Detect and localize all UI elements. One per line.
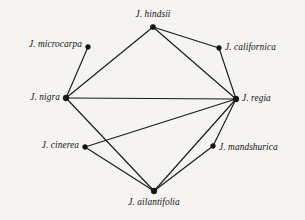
graph-canvas <box>0 0 305 220</box>
node-label-regia: J. regia <box>242 94 271 103</box>
node-cinerea[interactable] <box>83 145 88 150</box>
node-label-nigra: J. nigra <box>30 93 60 102</box>
species-network-diagram: J. hindsiiJ. microcarpaJ. californicaJ. … <box>0 0 305 220</box>
node-hindsii[interactable] <box>150 24 155 29</box>
node-ailantifolia[interactable] <box>151 188 157 194</box>
edge-nigra-hindsii <box>66 27 153 98</box>
node-microcarpa[interactable] <box>86 45 91 50</box>
edge-nigra-regia <box>66 98 236 99</box>
node-label-hindsii: J. hindsii <box>135 10 170 19</box>
edge-nigra-ailantifolia <box>66 98 154 191</box>
edge-nigra-microcarpa <box>66 47 88 98</box>
node-label-microcarpa: J. microcarpa <box>29 40 82 49</box>
node-label-mandshurica: J. mandshurica <box>219 143 278 152</box>
edge-cinerea-ailantifolia <box>85 147 154 191</box>
edge-layer <box>66 27 236 191</box>
node-californica[interactable] <box>217 46 222 51</box>
node-mandshurica[interactable] <box>211 144 216 149</box>
node-nigra[interactable] <box>63 95 69 101</box>
node-label-californica: J. californica <box>225 43 276 52</box>
edge-ailantifolia-mandshurica <box>154 146 213 191</box>
node-label-cinerea: J. cinerea <box>42 141 79 150</box>
edge-cinerea-regia <box>85 99 236 147</box>
edge-mandshurica-regia <box>213 99 236 146</box>
node-regia[interactable] <box>233 96 239 102</box>
edge-hindsii-californica <box>153 27 219 48</box>
node-label-ailantifolia: J. ailantifolia <box>128 198 180 207</box>
node-layer <box>63 24 239 194</box>
